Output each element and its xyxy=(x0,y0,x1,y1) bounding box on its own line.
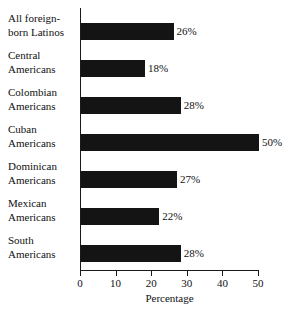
category-label-line2: Americans xyxy=(8,100,56,112)
bar-value-label: 26% xyxy=(177,24,197,39)
x-axis-tick-label: 20 xyxy=(131,277,171,290)
bar-row: Cuban Americans 50% xyxy=(0,123,296,160)
category-label: Central Americans xyxy=(8,49,78,76)
x-axis-title: Percentage xyxy=(80,292,259,305)
x-axis-tick-label: 50 xyxy=(238,277,278,290)
bar-row: Mexican Americans 22% xyxy=(0,197,296,234)
bar xyxy=(81,23,174,40)
bar xyxy=(81,245,181,262)
x-axis-tick-label: 30 xyxy=(167,277,207,290)
category-label: Mexican Americans xyxy=(8,197,78,224)
category-label-line2: Americans xyxy=(8,248,56,260)
bar-row: All foreign- born Latinos 26% xyxy=(0,12,296,49)
bar-chart-figure: All foreign- born Latinos 26% Central Am… xyxy=(0,0,296,317)
plot-area: All foreign- born Latinos 26% Central Am… xyxy=(0,0,296,317)
x-axis-tick-label: 0 xyxy=(60,277,100,290)
x-axis-tick xyxy=(116,271,117,276)
bar-value-label: 22% xyxy=(162,209,182,224)
bar xyxy=(81,97,181,114)
bar xyxy=(81,60,145,77)
category-label: Colombian Americans xyxy=(8,86,78,113)
bar-value-label: 18% xyxy=(148,61,168,76)
category-label-line2: Americans xyxy=(8,174,56,186)
category-label-line1: All foreign- xyxy=(8,12,60,24)
category-label-line1: Central xyxy=(8,49,40,61)
bar xyxy=(81,208,159,225)
category-label-line1: Cuban xyxy=(8,123,37,135)
category-label-line1: Colombian xyxy=(8,86,57,98)
x-axis-tick xyxy=(80,271,81,276)
category-label-line1: South xyxy=(8,234,34,246)
bar-row: Dominican Americans 27% xyxy=(0,160,296,197)
bar-row: Central Americans 18% xyxy=(0,49,296,86)
bar-value-label: 27% xyxy=(180,172,200,187)
category-label-line2: born Latinos xyxy=(8,26,64,38)
bar-row: Colombian Americans 28% xyxy=(0,86,296,123)
bar-row: South Americans 28% xyxy=(0,234,296,271)
category-label: Cuban Americans xyxy=(8,123,78,150)
x-axis-tick xyxy=(222,271,223,276)
bar xyxy=(81,171,177,188)
category-label-line1: Dominican xyxy=(8,160,57,172)
bar-value-label: 28% xyxy=(184,98,204,113)
category-label: South Americans xyxy=(8,234,78,261)
bar xyxy=(81,134,259,151)
x-axis-tick xyxy=(151,271,152,276)
bar-value-label: 50% xyxy=(262,135,282,150)
category-label: Dominican Americans xyxy=(8,160,78,187)
x-axis-tick-label: 40 xyxy=(202,277,242,290)
category-label-line2: Americans xyxy=(8,211,56,223)
category-label: All foreign- born Latinos xyxy=(8,12,78,39)
x-axis-tick xyxy=(187,271,188,276)
category-label-line2: Americans xyxy=(8,63,56,75)
category-label-line2: Americans xyxy=(8,137,56,149)
x-axis-tick xyxy=(258,271,259,276)
x-axis-tick-label: 10 xyxy=(96,277,136,290)
bar-value-label: 28% xyxy=(184,246,204,261)
category-label-line1: Mexican xyxy=(8,197,46,209)
